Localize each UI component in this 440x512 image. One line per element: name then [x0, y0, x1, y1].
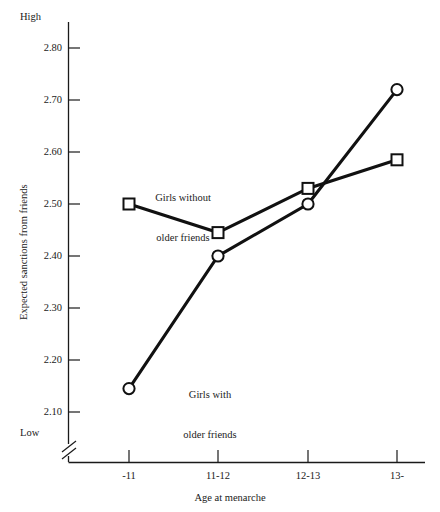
y-tick-label-2-60: 2.60	[22, 145, 62, 158]
y-tick-label-2-70: 2.70	[22, 93, 62, 106]
annotation-with-line-1: Girls with	[160, 388, 260, 401]
y-axis-title: Expected sanctions from friends	[17, 184, 30, 320]
chart-container: High Low 2.80 2.70 2.60 2.50 2.40 2.30 2…	[0, 0, 440, 512]
x-tick-label-11-12: 11-12	[188, 469, 248, 482]
y-tick-label-2-80: 2.80	[22, 41, 62, 54]
x-axis-title: Age at menarche	[130, 491, 330, 504]
x-tick-label-13-plus: 13-	[367, 469, 427, 482]
annotation-girls-without-older-friends: Girls without older friends	[128, 164, 238, 272]
y-axis-low-label: Low	[20, 426, 39, 439]
y-tick-label-2-10: 2.10	[22, 405, 62, 418]
annotation-girls-with-older-friends: Girls with older friends	[160, 361, 260, 469]
annotation-without-line-2: older friends	[128, 231, 238, 244]
y-tick-marks	[69, 48, 81, 412]
y-tick-label-2-20: 2.20	[22, 353, 62, 366]
annotation-without-line-1: Girls without	[128, 191, 238, 204]
y-axis-high-label: High	[20, 10, 41, 23]
x-tick-label-under-11: -11	[99, 469, 159, 482]
annotation-with-line-2: older friends	[160, 428, 260, 441]
x-tick-label-12-13: 12-13	[278, 469, 338, 482]
